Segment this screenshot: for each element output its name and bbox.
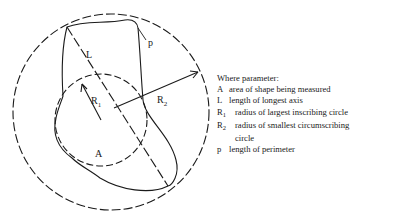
legend-item-length: Llength of longest axis: [217, 95, 349, 106]
label-R1: R1: [91, 95, 102, 109]
r2-arrow: [114, 72, 198, 108]
circumscribing-circle: [13, 14, 209, 210]
legend: Where parameter: Aarea of shape being me…: [217, 73, 349, 155]
legend-item-r2-continuation: circle: [217, 133, 349, 144]
label-p: p: [148, 37, 153, 48]
legend-item-r2: R2radius of smallest circumscribing: [217, 120, 349, 133]
label-L: L: [86, 49, 92, 60]
label-A: A: [95, 148, 103, 159]
legend-item-r1: R1radius of largest inscribing circle: [217, 107, 349, 120]
legend-item-area: Aarea of shape being measured: [217, 84, 349, 95]
shape-perimeter: [55, 20, 177, 191]
label-R2: R2: [157, 94, 168, 108]
legend-title: Where parameter:: [217, 73, 349, 84]
legend-item-perimeter: plength of perimeter: [217, 144, 349, 155]
